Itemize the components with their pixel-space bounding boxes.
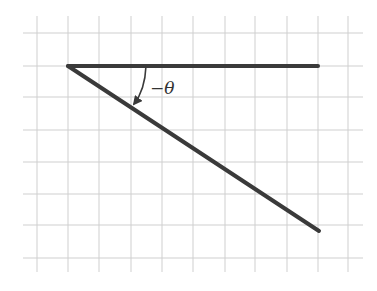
angle-label: −θ <box>150 78 174 98</box>
angle-arc-arrow-icon <box>134 66 146 104</box>
angle-diagram: −θ <box>0 0 377 291</box>
grid <box>23 16 363 272</box>
